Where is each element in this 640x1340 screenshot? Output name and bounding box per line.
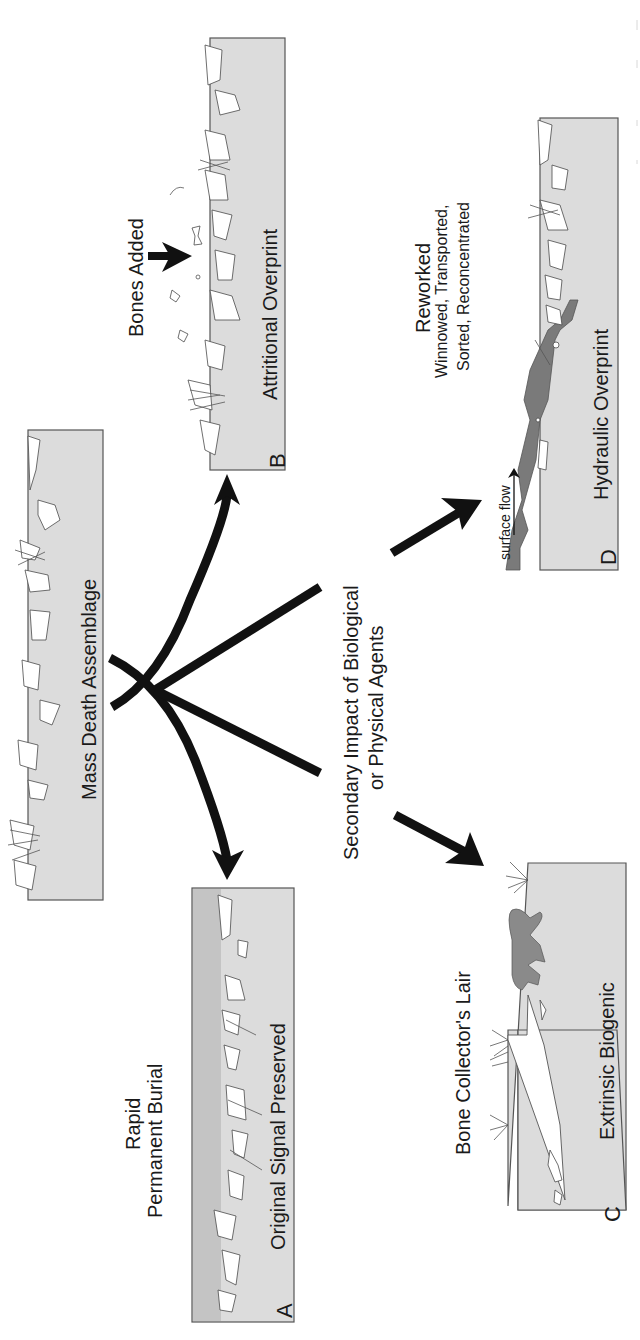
arrow-to-b-icon (112, 495, 227, 707)
secondary-impact-label-line1: Secondary Impact of Biological (340, 585, 362, 860)
panel-b-letter: B (265, 453, 290, 468)
panel-a-title: Original Signal Preserved (267, 1023, 289, 1250)
mass-death-panel: Mass Death Assemblage (8, 430, 103, 900)
panel-b-attritional: B Attritional Overprint (170, 38, 290, 470)
surface-flow-label: surface flow (497, 484, 513, 560)
sorted-label: Sorted, Reconcentrated (455, 202, 472, 371)
permanent-burial-label: Permanent Burial (144, 1063, 166, 1218)
secondary-impact-label-line2: or Physical Agents (365, 625, 387, 790)
arrow-to-c-icon (395, 815, 484, 866)
panel-b-title: Attritional Overprint (259, 228, 281, 400)
panel-d-letter: D (596, 549, 621, 565)
arrow-to-d-icon (392, 498, 482, 553)
rapid-label: Rapid (122, 1098, 144, 1150)
mass-death-title: Mass Death Assemblage (78, 579, 100, 800)
taphonomy-diagram: Mass Death Assemblage B Attritional Over (0, 0, 640, 1340)
panel-a-original: A Original Signal Preserved (192, 888, 297, 1322)
bones-added-arrow-icon (148, 242, 192, 272)
arrow-to-a-icon (110, 658, 227, 860)
panel-c-extrinsic: C Extrinsic Biogenic (490, 862, 626, 1222)
arrow-to-secondary-up-icon (155, 587, 320, 690)
grass-icon (506, 862, 528, 893)
bone-collectors-lair-label: Bone Collector's Lair (452, 971, 474, 1155)
predator-animal-icon (509, 909, 545, 990)
panel-d-title: Hydraulic Overprint (590, 328, 612, 500)
branch-arrows (110, 474, 320, 880)
panel-a-letter: A (272, 1303, 297, 1318)
reworked-label: Reworked (412, 243, 434, 333)
panel-d-hydraulic: D Hydraulic Overprint (506, 118, 621, 570)
panel-c-title: Extrinsic Biogenic (596, 982, 618, 1140)
panel-c-letter: C (600, 1206, 625, 1222)
winnowed-label: Winnowed, Transported, (433, 205, 450, 378)
bones-added-label: Bones Added (125, 218, 147, 337)
